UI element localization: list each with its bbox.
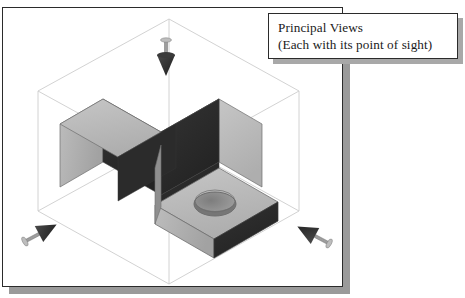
figure-root: Principal Views (Each with its point of … xyxy=(0,0,465,298)
point-of-sight-right xyxy=(293,219,335,253)
right-arrow-head xyxy=(293,219,319,244)
top-arrow-head xyxy=(157,55,175,76)
point-of-sight-top xyxy=(157,38,175,76)
caption-line-1: Principal Views xyxy=(278,19,457,36)
left-arrow-head xyxy=(35,217,61,242)
caption-line-2: (Each with its point of sight) xyxy=(278,36,457,53)
point-of-sight-left xyxy=(19,217,61,251)
caption-box: Principal Views (Each with its point of … xyxy=(268,13,458,59)
top-arrow-cap xyxy=(161,38,172,42)
top-arrow-head-base xyxy=(157,52,175,58)
